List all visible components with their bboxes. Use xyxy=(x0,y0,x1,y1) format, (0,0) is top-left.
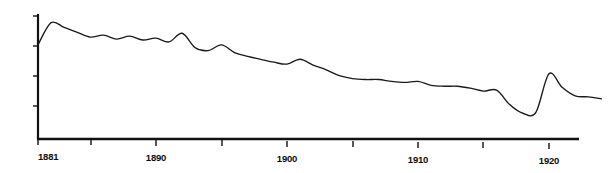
data-series-line xyxy=(38,22,601,116)
x-tick-label-1910: 1910 xyxy=(408,154,428,165)
line-chart-figure: 18811890190019101920 xyxy=(0,0,609,173)
x-tick-labels: 18811890190019101920 xyxy=(38,151,559,166)
x-tick-label-1900: 1900 xyxy=(277,153,297,164)
x-axis-ticks xyxy=(38,139,549,149)
x-tick-label-1881: 1881 xyxy=(38,151,59,162)
x-tick-label-1890: 1890 xyxy=(146,152,166,163)
chart-canvas: 18811890190019101920 xyxy=(0,0,609,173)
x-tick-label-1920: 1920 xyxy=(539,155,559,166)
